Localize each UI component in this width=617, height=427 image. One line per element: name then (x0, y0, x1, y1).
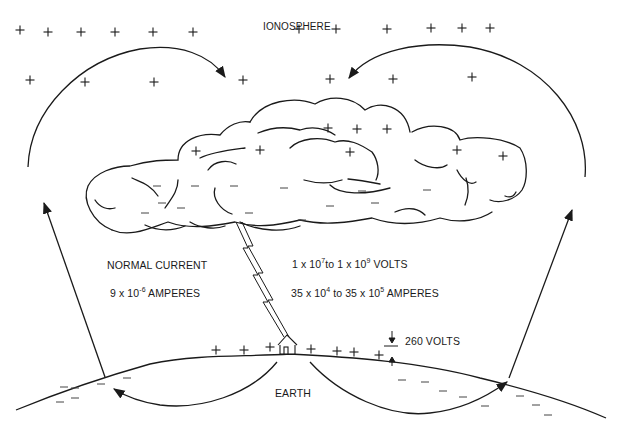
ionosphere-positive-charge (332, 25, 341, 34)
ground-positive-charge (333, 347, 342, 356)
ground-positive-charge (240, 346, 249, 355)
ionosphere-positive-charge (389, 75, 398, 84)
ionosphere-positive-charge (189, 28, 198, 37)
ionosphere-positive-charge (458, 24, 467, 33)
ionosphere-positive-charge (383, 25, 392, 34)
arrow-right-up (509, 210, 572, 378)
normal-amps-base: 9 x 10 (110, 287, 139, 299)
ground-positive-charge (375, 351, 384, 360)
normal-current-amperes: 9 x 10-6 AMPERES (110, 287, 200, 299)
normal-amps-unit: AMPERES (146, 287, 200, 299)
ionosphere-positive-charge (150, 78, 159, 87)
earth-label: EARTH (275, 387, 311, 399)
ionosphere-positive-charge (26, 76, 35, 85)
lightning-bolt (236, 222, 289, 337)
ionosphere-positive-charge (427, 24, 436, 33)
ground-positive-charge (212, 346, 221, 355)
cloud-positive-charge (346, 148, 355, 157)
lightning-voltage-label: 1 x 107to 1 x 109 VOLTS (292, 258, 408, 270)
ionosphere-positive-charge (16, 26, 25, 35)
amps-unit: AMPERES (384, 287, 438, 299)
ground-voltage-label: 260 VOLTS (405, 335, 460, 347)
ionosphere-positive-charge (77, 28, 86, 37)
cloud-positive-charge (499, 152, 508, 161)
amps-mid: to 35 x 10 (330, 287, 380, 299)
normal-current-label: NORMAL CURRENT (107, 259, 207, 271)
ionosphere-positive-charge (44, 28, 53, 37)
thundercloud (86, 98, 526, 233)
ground-positive-charge (350, 348, 359, 357)
ionosphere-positive-charge (486, 24, 495, 33)
lightning-current-label: 35 x 104 to 35 x 105 AMPERES (291, 287, 439, 299)
arrow-left-up (44, 203, 105, 377)
ground-positive-charge (266, 343, 275, 352)
house-icon (278, 335, 297, 354)
cloud-positive-charge (324, 124, 333, 133)
ground-positive-charge (307, 345, 316, 354)
ionosphere-positive-charge (468, 73, 477, 82)
amps-a-base: 35 x 10 (291, 287, 326, 299)
arc-right-top (349, 45, 585, 177)
cloud-positive-charge (383, 125, 392, 134)
volts-a-base: 1 x 10 (292, 258, 321, 270)
ionosphere-positive-charge (81, 78, 90, 87)
cloud-positive-charge (353, 125, 362, 134)
arc-ground-right (310, 362, 507, 414)
ionosphere-positive-charge (239, 76, 248, 85)
ionosphere-label: IONOSPHERE (263, 21, 331, 32)
ionosphere-positive-charge (149, 28, 158, 37)
cloud-positive-charge (192, 147, 201, 156)
diagram-canvas (0, 0, 617, 427)
arc-ground-left (114, 362, 277, 406)
ionosphere-positive-charge (326, 75, 335, 84)
atmospheric-electricity-diagram: IONOSPHERE NORMAL CURRENT 9 x 10-6 AMPER… (0, 0, 617, 427)
cloud-positive-charge (256, 146, 265, 155)
volts-unit: VOLTS (370, 258, 407, 270)
volts-mid: to 1 x 10 (325, 258, 366, 270)
cloud-positive-charge (453, 146, 462, 155)
ionosphere-positive-charge (111, 28, 120, 37)
